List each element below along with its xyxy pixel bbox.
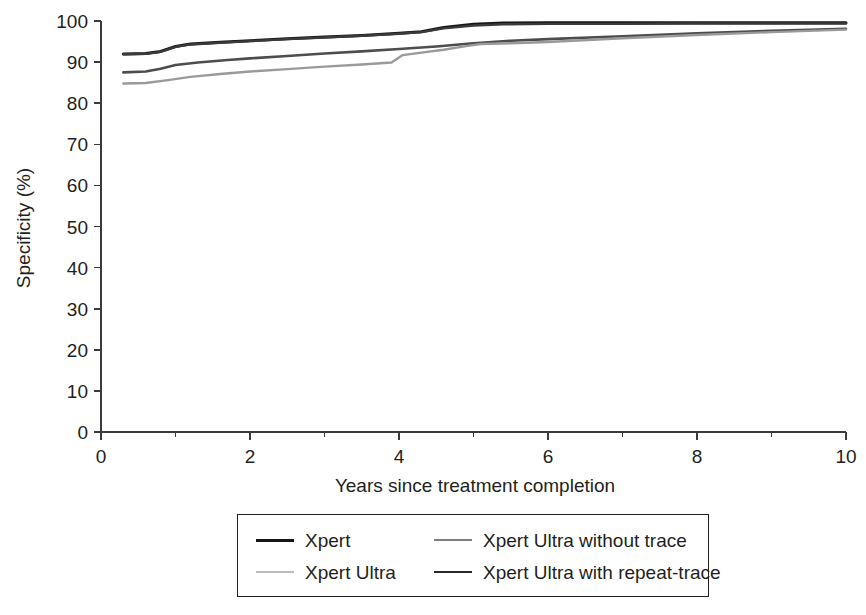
- chart-figure: 01020304050607080901000246810 Years sinc…: [0, 0, 866, 615]
- chart-legend: Xpert Xpert Ultra without trace Xpert Ul…: [237, 514, 709, 597]
- y-tick-label: 20: [67, 340, 88, 361]
- y-tick-label: 80: [67, 93, 88, 114]
- legend-item-xpert[interactable]: Xpert: [238, 531, 416, 550]
- y-tick-label: 30: [67, 299, 88, 320]
- series-layer: [123, 23, 846, 84]
- x-axis-title: Years since treatment completion: [335, 475, 615, 496]
- legend-swatch-line-icon: [256, 571, 294, 573]
- series-line: [123, 30, 846, 84]
- legend-swatch-line-icon: [434, 539, 472, 541]
- x-tick-label: 6: [543, 446, 554, 467]
- legend-item-xpert-ultra[interactable]: Xpert Ultra: [238, 563, 416, 582]
- legend-item-xpert-ultra-without-trace[interactable]: Xpert Ultra without trace: [416, 531, 710, 550]
- legend-item-xpert-ultra-with-repeat-trace[interactable]: Xpert Ultra with repeat-trace: [416, 563, 710, 582]
- legend-swatch-line-icon: [256, 539, 294, 542]
- y-tick-label: 70: [67, 134, 88, 155]
- legend-swatch-line-icon: [434, 571, 472, 573]
- x-tick-label: 8: [692, 446, 703, 467]
- y-tick-label: 40: [67, 258, 88, 279]
- legend-label: Xpert Ultra: [305, 563, 396, 582]
- y-tick-label: 60: [67, 175, 88, 196]
- y-tick-label: 0: [77, 422, 88, 443]
- legend-grid: Xpert Xpert Ultra without trace Xpert Ul…: [238, 524, 708, 588]
- y-tick-label: 10: [67, 381, 88, 402]
- series-line: [123, 29, 846, 73]
- legend-label: Xpert Ultra without trace: [483, 531, 687, 550]
- x-tick-label: 0: [96, 446, 107, 467]
- legend-label: Xpert: [305, 531, 350, 550]
- x-tick-label: 2: [245, 446, 256, 467]
- x-tick-label: 4: [394, 446, 405, 467]
- y-axis-title: Specificity (%): [13, 168, 34, 288]
- y-tick-label: 50: [67, 217, 88, 238]
- x-tick-label: 10: [835, 446, 856, 467]
- series-line: [123, 23, 846, 54]
- y-tick-label: 90: [67, 52, 88, 73]
- series-line: [123, 23, 846, 54]
- y-tick-label: 100: [56, 11, 88, 32]
- legend-label: Xpert Ultra with repeat-trace: [483, 563, 721, 582]
